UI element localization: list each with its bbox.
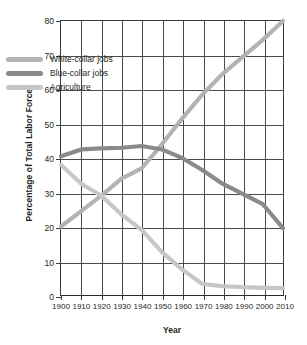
x-tick-label: 2000	[256, 303, 274, 311]
legend-label: Blue-collar jobs	[50, 69, 108, 78]
labor-force-line-chart: Percentage of Total Labor Force 01020304…	[0, 0, 307, 345]
legend-swatch-icon	[6, 85, 43, 90]
legend-label: Agriculture	[50, 83, 91, 92]
legend-item: Blue-collar jobs	[6, 69, 113, 78]
series-line-agriculture	[61, 165, 283, 288]
x-tick-label: 1980	[215, 303, 233, 311]
x-tick-label: 2010	[276, 303, 294, 311]
x-tick-label: 1920	[93, 303, 111, 311]
chart-legend: White-collar jobsBlue-collar jobsAgricul…	[6, 55, 113, 92]
x-tick	[61, 295, 62, 300]
x-tick	[102, 295, 103, 300]
x-tick	[224, 295, 225, 300]
y-tick-label: 10	[45, 258, 54, 267]
x-tick-label: 1950	[154, 303, 172, 311]
x-axis-title: Year	[60, 325, 284, 335]
y-tick-label: 40	[45, 155, 54, 164]
x-tick	[81, 295, 82, 300]
legend-swatch-icon	[6, 57, 43, 62]
x-tick-label: 1910	[72, 303, 90, 311]
y-tick-label: 30	[45, 189, 54, 198]
x-tick	[142, 295, 143, 300]
x-tick	[204, 295, 205, 300]
y-tick-label: 80	[45, 17, 54, 26]
x-tick	[122, 295, 123, 300]
x-tick-label: 1990	[235, 303, 253, 311]
y-tick-label: 50	[45, 120, 54, 129]
x-tick-label: 1970	[195, 303, 213, 311]
x-tick	[285, 295, 286, 300]
y-tick-label: 20	[45, 224, 54, 233]
y-tick-label: 0	[49, 293, 54, 302]
x-tick-label: 1900	[52, 303, 70, 311]
legend-label: White-collar jobs	[50, 55, 113, 64]
x-tick-label: 1930	[113, 303, 131, 311]
x-tick-label: 1940	[134, 303, 152, 311]
legend-item: White-collar jobs	[6, 55, 113, 64]
x-tick-label: 1960	[174, 303, 192, 311]
legend-swatch-icon	[6, 71, 43, 76]
x-tick	[183, 295, 184, 300]
x-tick	[163, 295, 164, 300]
x-tick	[265, 295, 266, 300]
x-tick	[244, 295, 245, 300]
legend-item: Agriculture	[6, 83, 113, 92]
series-line-blue-collar-jobs	[61, 146, 283, 228]
